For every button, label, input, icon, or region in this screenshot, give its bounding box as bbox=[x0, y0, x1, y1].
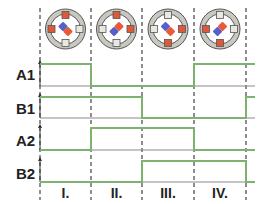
phase-label: I. bbox=[46, 186, 86, 200]
stator-pole-left bbox=[48, 26, 55, 33]
stator-pole-left bbox=[99, 26, 106, 33]
stator-pole-bottom bbox=[62, 40, 69, 47]
waveforms bbox=[38, 60, 255, 182]
phase-label: IV. bbox=[200, 186, 240, 200]
signal-label-a2: A2 bbox=[16, 133, 35, 148]
signal-label-a1: A1 bbox=[16, 67, 35, 82]
stator-pole-bottom bbox=[113, 40, 120, 47]
stator-pole-left bbox=[151, 26, 158, 33]
stator-pole-left bbox=[203, 26, 210, 33]
signal-label-b2: B2 bbox=[16, 166, 35, 181]
timing-diagram bbox=[0, 0, 272, 204]
motor-icon bbox=[200, 9, 240, 49]
stator-pole-top bbox=[217, 12, 224, 19]
stator-pole-right bbox=[231, 26, 238, 33]
waveform-a2 bbox=[38, 124, 255, 150]
stator-pole-top bbox=[165, 12, 172, 19]
stator-pole-top bbox=[62, 12, 69, 19]
stator-pole-right bbox=[76, 26, 83, 33]
waveform-a1 bbox=[38, 60, 255, 86]
stator-pole-right bbox=[127, 26, 134, 33]
motor-illustrations bbox=[46, 9, 241, 49]
stator-pole-bottom bbox=[165, 40, 172, 47]
stator-pole-bottom bbox=[217, 40, 224, 47]
signal-label-b1: B1 bbox=[16, 101, 35, 116]
motor-icon bbox=[97, 9, 137, 49]
waveform-b2 bbox=[38, 157, 255, 182]
stator-pole-right bbox=[179, 26, 186, 33]
stator-pole-top bbox=[113, 12, 120, 19]
phase-label: II. bbox=[97, 186, 137, 200]
phase-label: III. bbox=[148, 186, 188, 200]
motor-icon bbox=[148, 9, 188, 49]
waveform-b1 bbox=[38, 93, 255, 118]
motor-icon bbox=[46, 9, 86, 49]
